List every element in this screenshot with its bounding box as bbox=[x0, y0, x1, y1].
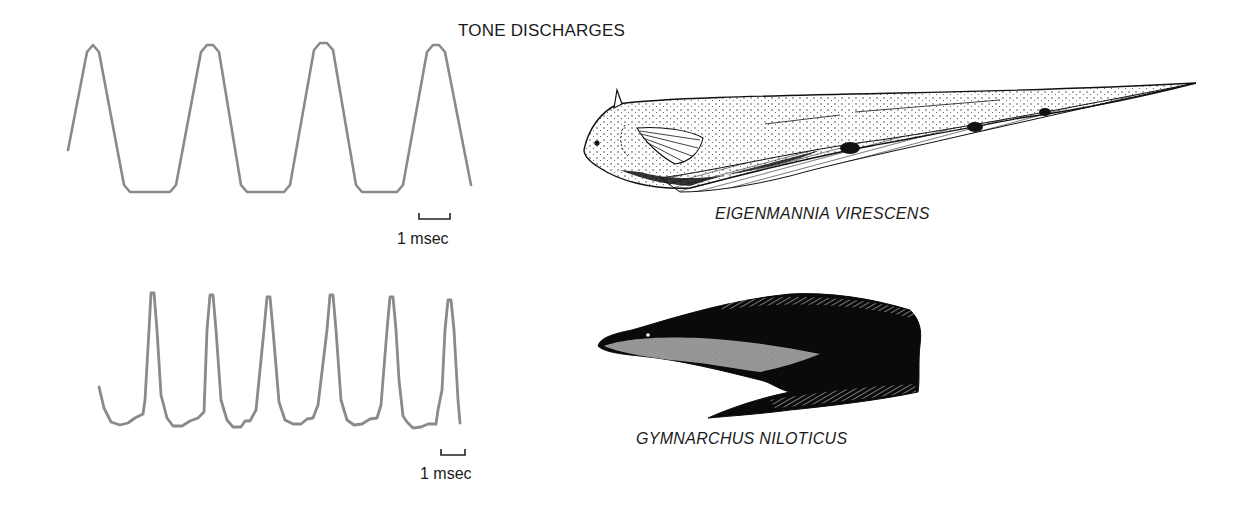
species-label-gymnarchus: GYMNARCHUS NILOTICUS bbox=[636, 430, 847, 448]
figure-canvas bbox=[0, 0, 1259, 523]
scale-label-bottom: 1 msec bbox=[420, 465, 472, 483]
gymnarchus-waveform bbox=[99, 293, 460, 428]
eigenmannia-waveform bbox=[68, 43, 471, 192]
species-label-eigenmannia: EIGENMANNIA VIRESCENS bbox=[715, 205, 930, 223]
scale-label-top: 1 msec bbox=[397, 230, 449, 248]
scale-bar-bottom bbox=[441, 449, 465, 455]
scale-bar-top bbox=[419, 213, 450, 219]
eigenmannia-fish-illustration bbox=[584, 83, 1196, 192]
gymnarchus-fish-illustration bbox=[598, 294, 921, 418]
